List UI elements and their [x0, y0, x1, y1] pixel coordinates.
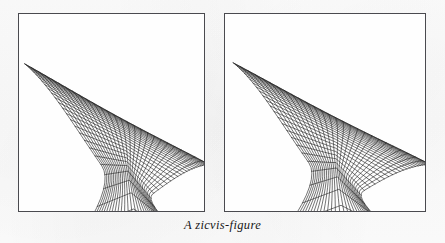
- zicvis-panel-left: [18, 13, 205, 212]
- wireframe-mesh-right: [224, 13, 426, 212]
- zicvis-figure: A zicvis-figure: [0, 0, 445, 243]
- wireframe-mesh-left: [18, 13, 205, 212]
- figure-caption: A zicvis-figure: [0, 218, 445, 233]
- zicvis-panel-right: [224, 13, 426, 212]
